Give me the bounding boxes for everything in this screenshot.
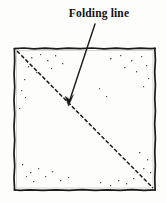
paper-border-top [15, 48, 156, 49]
callout-leader-line [70, 24, 96, 101]
paper-border-bottom [14, 190, 155, 191]
paper-border-left [14, 49, 15, 191]
folding-line [17, 51, 153, 188]
folding-line-label: Folding line [62, 7, 136, 20]
figure-container: Folding line [0, 0, 166, 203]
callout-arrowhead-icon [65, 95, 73, 107]
paper-border-right [155, 48, 156, 190]
folding-line-diagram [0, 0, 166, 203]
